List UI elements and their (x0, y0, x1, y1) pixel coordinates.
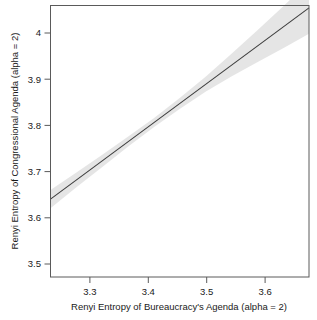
x-tick-label: 3.3 (83, 286, 96, 297)
y-axis-title: Renyi Entropy of Congressional Agenda (a… (9, 33, 20, 250)
y-tick-label: 3.7 (28, 166, 41, 177)
x-tick-label: 3.6 (258, 286, 271, 297)
y-tick-label: 3.5 (28, 258, 41, 269)
y-tick-label: 3.9 (28, 74, 41, 85)
y-tick-label: 3.6 (28, 212, 41, 223)
y-tick-label: 3.8 (28, 120, 41, 131)
chart-canvas: 4 3.9 3.8 3.7 3.6 3.5 3.3 3.4 3.5 3.6 Re… (0, 0, 317, 320)
y-tick-label: 4 (36, 27, 41, 38)
regression-plot-figure: 4 3.9 3.8 3.7 3.6 3.5 3.3 3.4 3.5 3.6 Re… (0, 0, 317, 320)
x-axis-title: Renyi Entropy of Bureaucracy's Agenda (a… (71, 301, 287, 312)
x-tick-label: 3.4 (142, 286, 155, 297)
x-tick-label: 3.5 (200, 286, 213, 297)
